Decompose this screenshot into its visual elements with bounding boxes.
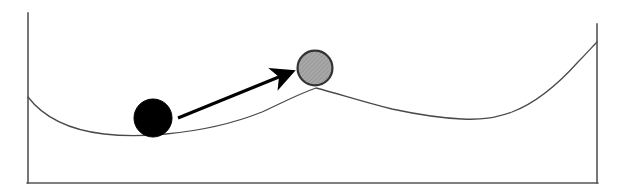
black-ball [134,99,172,137]
transition-arrow [178,71,292,118]
axis-frame [27,13,598,183]
figure-canvas [0,0,621,194]
gray-ball [298,51,333,86]
energy-landscape-figure [0,0,621,194]
